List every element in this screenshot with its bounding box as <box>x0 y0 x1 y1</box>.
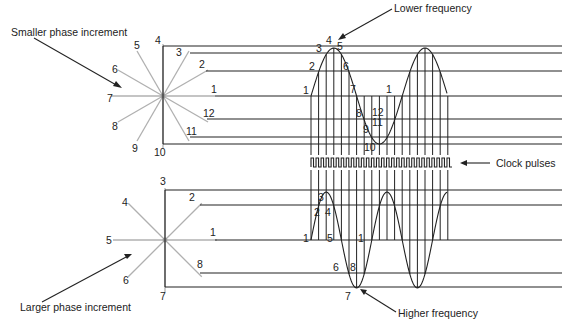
clock-pulse-path <box>311 158 452 167</box>
phasor-spoke <box>165 203 202 240</box>
sample-number-label: 6 <box>343 60 349 72</box>
sample-number-label: 1 <box>303 232 309 244</box>
phasor-spoke <box>128 203 165 240</box>
spoke-number-label: 5 <box>134 39 140 51</box>
sample-number-label: 6 <box>333 261 339 273</box>
spoke-number-label: 9 <box>132 142 138 154</box>
sample-number-label: 1 <box>358 232 364 244</box>
smaller-phase-increment-label: Smaller phase increment <box>11 26 127 38</box>
sample-number-label: 1 <box>303 84 309 96</box>
spoke-number-label: 4 <box>122 196 128 208</box>
sample-number-label: 5 <box>327 232 333 244</box>
clock-pulse-train <box>311 158 452 167</box>
level-number-label: 3 <box>160 175 166 187</box>
sample-number-label: 2 <box>309 60 315 72</box>
sample-number-label: 7 <box>350 83 356 95</box>
arrowhead-icon <box>124 254 132 259</box>
level-number-label: 2 <box>189 191 195 203</box>
level-number-label: 3 <box>176 46 182 58</box>
sample-number-label: 3 <box>318 191 324 203</box>
level-number-label: 8 <box>197 258 203 270</box>
spoke-number-label: 6 <box>112 63 118 75</box>
sample-number-label: 10 <box>364 141 376 153</box>
arrowhead-icon <box>460 160 467 166</box>
sample-number-label: 8 <box>350 261 356 273</box>
sample-number-label: 3 <box>316 42 322 54</box>
smaller-phase-arrow-icon <box>34 38 118 86</box>
sample-number-label: 2 <box>314 206 320 218</box>
sample-number-label: 8 <box>356 107 362 119</box>
phase-increment-frequency-diagram: 432112111056789 32187456 123456789101112… <box>0 0 572 335</box>
level-number-label: 12 <box>203 107 215 119</box>
sample-number-label: 9 <box>363 123 369 135</box>
spoke-number-label: 5 <box>106 234 112 246</box>
sample-number-label: 1 <box>386 83 392 95</box>
spoke-number-label: 6 <box>123 274 129 286</box>
level-number-label: 4 <box>155 34 161 46</box>
sample-number-label: 4 <box>325 206 331 218</box>
larger-phase-increment-label: Larger phase increment <box>20 301 131 313</box>
level-number-label: 7 <box>160 290 166 302</box>
lower-frequency-label: Lower frequency <box>394 2 472 14</box>
arrowhead-icon <box>360 289 367 295</box>
level-number-label: 1 <box>211 83 217 95</box>
sample-number-label: 5 <box>337 40 343 52</box>
lower-frequency-arrow-icon <box>342 9 392 37</box>
top-phasor-section: 432112111056789 <box>107 34 562 158</box>
level-number-label: 2 <box>199 58 205 70</box>
higher-frequency-arrow-icon <box>364 292 396 312</box>
larger-phase-arrow-icon <box>42 256 128 302</box>
sample-number-label: 4 <box>326 34 332 46</box>
level-number-label: 1 <box>210 226 216 238</box>
spoke-number-label: 7 <box>107 92 113 104</box>
clock-pulses-label: Clock pulses <box>496 157 556 169</box>
higher-frequency-label: Higher frequency <box>398 307 479 319</box>
level-number-label: 11 <box>186 125 197 137</box>
arrowhead-icon <box>113 81 122 88</box>
sample-number-label: 7 <box>345 290 351 302</box>
level-number-label: 10 <box>154 146 166 158</box>
phasor-spoke <box>128 240 165 277</box>
spoke-number-label: 8 <box>112 120 118 132</box>
arrowhead-icon <box>338 33 346 40</box>
sample-number-label: 12 <box>372 106 384 118</box>
